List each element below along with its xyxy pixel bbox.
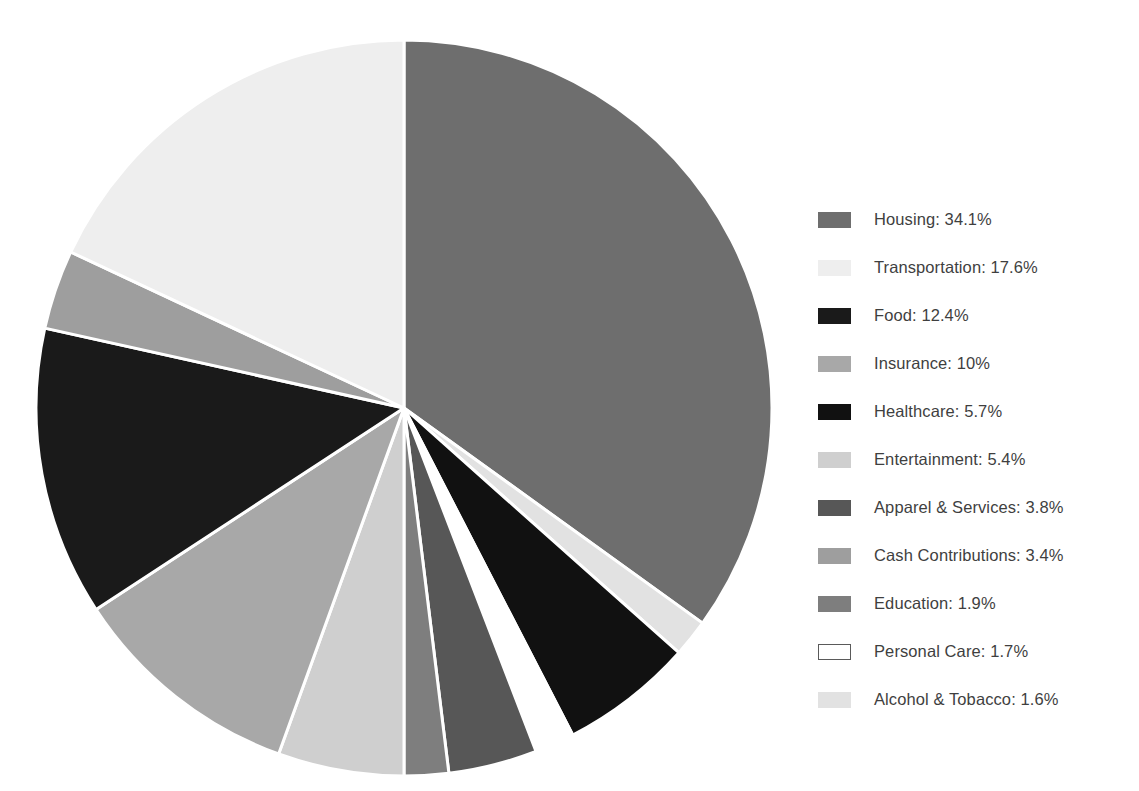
legend-item-label: Education: 1.9% <box>874 594 996 614</box>
chart-page: Housing: 34.1%Transportation: 17.6%Food:… <box>0 0 1139 791</box>
legend-item[interactable]: Personal Care: 1.7% <box>818 628 1130 676</box>
legend-swatch-icon <box>818 644 851 660</box>
legend-item[interactable]: Entertainment: 5.4% <box>818 436 1130 484</box>
legend-swatch-icon <box>818 452 851 468</box>
legend-item-label: Housing: 34.1% <box>874 210 992 230</box>
legend-item-label: Insurance: 10% <box>874 354 990 374</box>
pie-chart-svg <box>0 0 810 791</box>
legend-item[interactable]: Alcohol & Tobacco: 1.6% <box>818 676 1130 724</box>
legend-item[interactable]: Insurance: 10% <box>818 340 1130 388</box>
legend-item[interactable]: Transportation: 17.6% <box>818 244 1130 292</box>
legend-swatch-icon <box>818 692 851 708</box>
legend-item-label: Healthcare: 5.7% <box>874 402 1002 422</box>
legend-item-label: Apparel & Services: 3.8% <box>874 498 1064 518</box>
legend-item[interactable]: Housing: 34.1% <box>818 196 1130 244</box>
legend-swatch-icon <box>818 308 851 324</box>
legend-swatch-icon <box>818 596 851 612</box>
legend-item-label: Food: 12.4% <box>874 306 969 326</box>
legend-item[interactable]: Food: 12.4% <box>818 292 1130 340</box>
chart-legend: Housing: 34.1%Transportation: 17.6%Food:… <box>818 196 1130 724</box>
legend-swatch-icon <box>818 260 851 276</box>
legend-item-label: Personal Care: 1.7% <box>874 642 1028 662</box>
legend-swatch-icon <box>818 500 851 516</box>
pie-chart-area <box>0 0 810 791</box>
legend-swatch-icon <box>818 356 851 372</box>
legend-item[interactable]: Education: 1.9% <box>818 580 1130 628</box>
legend-swatch-icon <box>818 548 851 564</box>
legend-item[interactable]: Apparel & Services: 3.8% <box>818 484 1130 532</box>
legend-item-label: Alcohol & Tobacco: 1.6% <box>874 690 1059 710</box>
legend-item-label: Cash Contributions: 3.4% <box>874 546 1064 566</box>
legend-item-label: Transportation: 17.6% <box>874 258 1038 278</box>
legend-item[interactable]: Healthcare: 5.7% <box>818 388 1130 436</box>
legend-swatch-icon <box>818 212 851 228</box>
legend-swatch-icon <box>818 404 851 420</box>
legend-item-label: Entertainment: 5.4% <box>874 450 1025 470</box>
pie-slices-group <box>36 40 772 776</box>
legend-item[interactable]: Cash Contributions: 3.4% <box>818 532 1130 580</box>
